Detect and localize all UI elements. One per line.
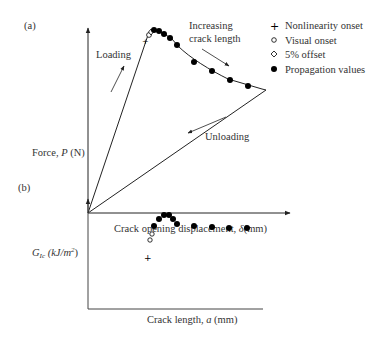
loading-annotation: Loading <box>96 49 132 60</box>
y-axis-label-a: Force, P (N) <box>32 147 85 159</box>
increasing-annotation-1: Increasing <box>189 20 233 31</box>
legend-label-3: Propagation values <box>285 64 365 75</box>
nonlinearity-marker-a: + <box>142 37 149 46</box>
loading-line <box>88 35 148 213</box>
panel-b: (b) GIc (kJ/m2) Crack length, a (mm) + <box>18 182 263 326</box>
increasing-annotation-2: crack length <box>189 33 241 44</box>
legend-open-circle-icon <box>272 38 277 43</box>
unloading-annotation: Unloading <box>205 131 250 142</box>
panel-a-label: (a) <box>24 20 36 32</box>
legend-plus-icon: + <box>270 20 279 33</box>
unloading-line <box>88 90 266 213</box>
legend-label-0: Nonlinearity onset <box>285 20 363 31</box>
y-axis-label-b: GIc (kJ/m2) <box>32 246 79 260</box>
visual-onset-marker-b <box>148 238 152 242</box>
x-axis-label-b: Crack length, a (mm) <box>147 314 238 326</box>
legend-label-2: 5% offset <box>285 49 325 60</box>
panel-a: (a) Force, P (N) Crack opening displacem… <box>24 20 290 235</box>
offset-marker-b <box>150 232 154 236</box>
legend: + Nonlinearity onset Visual onset 5% off… <box>270 20 365 75</box>
nonlinearity-marker-b: + <box>144 253 152 263</box>
legend-filled-circle-icon <box>271 66 277 72</box>
panel-b-label: (b) <box>18 182 31 194</box>
figure: (a) Force, P (N) Crack opening displacem… <box>0 0 386 341</box>
increasing-arrow <box>202 49 229 66</box>
legend-diamond-icon <box>271 51 277 57</box>
legend-label-1: Visual onset <box>285 35 337 46</box>
loading-arrow <box>111 66 124 92</box>
